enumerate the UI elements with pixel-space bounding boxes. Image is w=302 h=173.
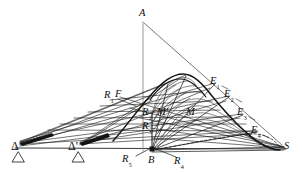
- s-chord: [130, 108, 284, 147]
- chord-line: [74, 117, 232, 118]
- label-e2-base: E: [224, 88, 230, 99]
- label-e3-subscript: 3: [244, 115, 247, 121]
- label-r5: R5: [122, 154, 131, 166]
- label-point-b: B: [148, 155, 154, 166]
- label-r2: R2: [142, 107, 151, 119]
- label-e3: E3: [237, 107, 246, 119]
- leader-r4: [156, 149, 176, 157]
- label-e1: E1: [210, 76, 219, 88]
- label-delta: Δ: [11, 140, 19, 152]
- label-r1-subscript: 1: [111, 98, 114, 104]
- label-r4-subscript: 4: [181, 164, 184, 170]
- fan-ray: [20, 95, 152, 144]
- label-point-a: A: [139, 8, 145, 19]
- e-tick: [249, 117, 255, 120]
- support-triangle: [12, 152, 24, 162]
- left-fan-rays: [20, 75, 256, 146]
- label-r1-base: R: [104, 89, 110, 100]
- label-point-m: M: [186, 107, 195, 118]
- label-e4: E4: [251, 125, 260, 137]
- label-delta-prime: Δ': [68, 140, 78, 152]
- label-e2: E2: [224, 89, 233, 101]
- geometric-diagram-figure: A F B S Δ Δ' M M' R1 R2 R3 R4 R5 E1 E2 E…: [0, 0, 302, 173]
- label-e3-base: E: [237, 106, 243, 117]
- label-point-f: F: [115, 89, 121, 100]
- diagram-linework: [12, 22, 286, 162]
- label-r4: R4: [174, 156, 183, 168]
- label-e1-subscript: 1: [217, 84, 220, 90]
- label-r3-subscript: 3: [149, 129, 152, 135]
- b-point-marker: [150, 147, 155, 152]
- dome-outline: [113, 74, 280, 150]
- diagram-canvas: [0, 0, 302, 173]
- label-e1-base: E: [210, 75, 216, 86]
- label-r5-base: R: [122, 153, 128, 164]
- label-e4-subscript: 4: [258, 133, 261, 139]
- label-r2-base: R: [142, 106, 148, 117]
- label-e2-subscript: 2: [231, 97, 234, 103]
- label-r1: R1: [104, 90, 113, 102]
- label-r3: R3: [142, 121, 151, 133]
- label-point-s: S: [284, 141, 289, 152]
- support-triangle: [72, 152, 84, 162]
- label-e4-base: E: [251, 124, 257, 135]
- label-r4-base: R: [174, 155, 180, 166]
- e-tick: [236, 99, 242, 102]
- label-point-m-prime: M': [157, 107, 168, 118]
- baseline-lower: [152, 150, 284, 152]
- label-r5-subscript: 5: [129, 162, 132, 168]
- support-triangles: [12, 152, 84, 162]
- label-r3-base: R: [142, 120, 148, 131]
- e-tick: [263, 135, 269, 138]
